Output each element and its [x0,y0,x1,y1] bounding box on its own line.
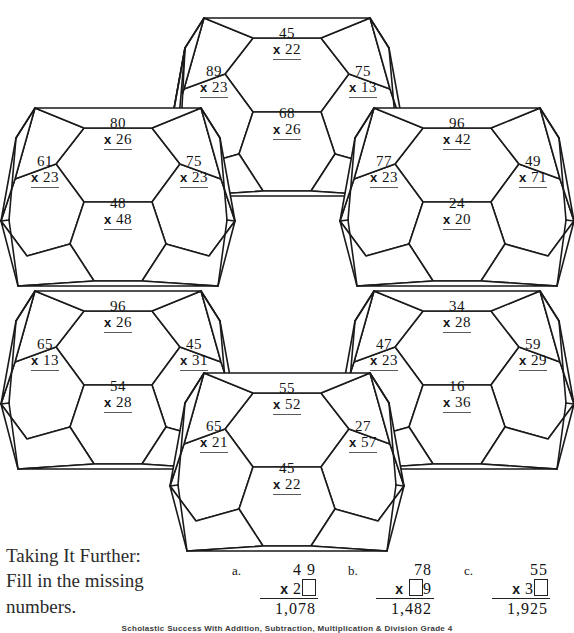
multiplicand: 45 [162,337,226,352]
multiplier-line: x 31 [180,353,208,370]
multiplicand: 61 [13,154,77,169]
multiplicand: 45 [255,26,319,41]
times-sign: x [349,80,357,95]
problem-top-right[interactable]: 75 x 13 [331,64,395,98]
problem-ul-bottom[interactable]: 48 x 48 [86,196,150,230]
problem-lr-bottom[interactable]: 16 x 36 [425,379,489,413]
multiplicand: 24 [425,196,489,211]
times-sign: x [519,170,527,185]
times-sign: x [200,435,208,450]
multiplier: 13 [361,79,377,95]
times-sign: x [519,353,527,368]
multiplier-line: x 22 [273,42,301,59]
tif-multiplier-row-b[interactable]: x9 [376,579,434,599]
problem-ul-left[interactable]: 61 x 23 [13,154,77,188]
problem-ll-top[interactable]: 96 x 26 [86,299,150,333]
tif-multiplier-row-a[interactable]: x2 [260,579,318,599]
times-sign: x [180,353,188,368]
tif-multiplier-digit-c: 3 [521,580,534,597]
multiplier-line: x 13 [31,353,59,370]
tif-product-c: 1,925 [492,599,550,618]
times-sign: x [370,170,378,185]
problem-lr-left[interactable]: 47 x 23 [352,337,416,371]
problem-top-top[interactable]: 45 x 22 [255,26,319,60]
multiplier-line: x 57 [349,435,377,452]
edge-ul-rl [227,220,235,221]
times-sign: x [180,170,188,185]
times-sign: x [273,122,281,137]
problem-top-left[interactable]: 89 x 23 [182,64,246,98]
problem-lr-right[interactable]: 59 x 29 [501,337,565,371]
multiplier: 23 [382,169,398,185]
multiplier-line: x 48 [104,212,132,229]
times-sign: x [443,395,451,410]
multiplier: 22 [285,41,301,57]
problem-ul-right[interactable]: 75 x 23 [162,154,226,188]
tif-multiplier-row-c[interactable]: x3 [492,579,550,599]
multiplier: 71 [531,169,547,185]
multiplicand: 16 [425,379,489,394]
edge-bt-rl [396,485,404,486]
multiplicand: 47 [352,337,416,352]
edge-ur-rl [566,220,574,221]
tif-blank-box-b[interactable] [409,579,423,596]
problem-lr-top[interactable]: 34 x 28 [425,299,489,333]
multiplier-line: x 13 [349,80,377,97]
multiplier-line: x 21 [200,435,228,452]
multiplicand: 75 [331,64,395,79]
times-sign: x [104,212,112,227]
times-sign: x [200,80,208,95]
multiplier-line: x 20 [443,212,471,229]
multiplier: 23 [212,79,228,95]
times-sign: x [273,477,281,492]
times-sign: x [443,212,451,227]
problem-bt-bottom[interactable]: 45 x 22 [255,461,319,495]
multiplier: 26 [285,121,301,137]
multiplicand: 27 [331,419,395,434]
multiplier-line: x 28 [443,315,471,332]
instruction-line-1: Fill in the missing [6,568,221,593]
multiplicand: 54 [86,379,150,394]
multiplier-line: x 23 [370,353,398,370]
times-sign: x [31,170,39,185]
multiplicand: 77 [352,154,416,169]
tif-problem-c[interactable]: c. 55 x3 1,925 [464,561,554,618]
multiplicand: 49 [501,154,565,169]
tif-blank-box-a[interactable] [302,579,316,596]
multiplier-line: x 23 [180,170,208,187]
multiplier-line: x 22 [273,477,301,494]
problem-ur-left[interactable]: 77 x 23 [352,154,416,188]
edge-ul-ll [1,220,9,221]
times-sign: x [31,353,39,368]
multiplicand: 96 [425,116,489,131]
multiplier-line: x 36 [443,395,471,412]
multiplier: 26 [116,314,132,330]
multiplicand: 48 [86,196,150,211]
multiplier-line: x 26 [273,122,301,139]
tif-blank-box-c[interactable] [534,579,548,596]
problem-bt-top[interactable]: 55 x 52 [255,381,319,415]
problem-ll-right[interactable]: 45 x 31 [162,337,226,371]
problem-ul-top[interactable]: 80 x 26 [86,116,150,150]
multiplier-line: x 23 [370,170,398,187]
problem-ur-top[interactable]: 96 x 42 [425,116,489,150]
times-sign: x [512,581,521,597]
problem-ur-bottom[interactable]: 24 x 20 [425,196,489,230]
multiplicand: 65 [182,419,246,434]
tif-problem-b[interactable]: b. 78 x9 1,482 [348,561,438,618]
tif-product-b: 1,482 [376,599,434,618]
multiplier: 23 [43,169,59,185]
multiplier: 23 [192,169,208,185]
tif-multiplicand-a: 4 9 [260,561,318,579]
problem-ll-bottom[interactable]: 54 x 28 [86,379,150,413]
problem-top-bottom[interactable]: 68 x 26 [255,106,319,140]
problem-bt-right[interactable]: 27 x 57 [331,419,395,453]
problem-ll-left[interactable]: 65 x 13 [13,337,77,371]
tif-multiplier-digit-b: 9 [423,580,432,597]
tif-problem-a[interactable]: a. 4 9 x2 1,078 [232,561,322,618]
multiplier: 42 [455,131,471,147]
problem-bt-left[interactable]: 65 x 21 [182,419,246,453]
multiplier-line: x 23 [200,80,228,97]
multiplier: 29 [531,352,547,368]
problem-ur-right[interactable]: 49 x 71 [501,154,565,188]
